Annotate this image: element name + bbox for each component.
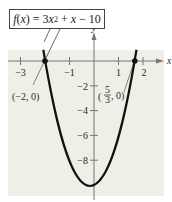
- svg-text:3: 3: [105, 94, 110, 105]
- x-intercept-point-a: [42, 58, 48, 64]
- y-axis-arrow-icon: [92, 32, 97, 40]
- point-a-label: (−2, 0): [12, 91, 39, 103]
- eq-plus: +: [58, 12, 71, 27]
- graph-canvas: −3 −1 1 2 −2 −4 −6 −8 x y (−2, 0) ( 5 3 …: [0, 0, 172, 202]
- y-tick-label: −6: [77, 130, 88, 141]
- y-tick-label: −2: [77, 81, 88, 92]
- x-tick-label: −1: [64, 67, 75, 78]
- x-tick-label: −3: [15, 67, 26, 78]
- y-tick-label: −4: [77, 105, 88, 116]
- y-tick-label: −8: [77, 155, 88, 166]
- x-tick-label: 1: [116, 67, 121, 78]
- equation-leader-line: [44, 29, 50, 42]
- x-tick-label: 2: [142, 67, 147, 78]
- x-intercept-point-b: [132, 58, 138, 64]
- x-axis-label: x: [166, 55, 172, 66]
- eq-tail: − 10: [76, 12, 101, 27]
- eq-mid: ) = 3: [26, 12, 49, 27]
- function-equation-label: f(x) = 3x2 + x − 10: [9, 9, 105, 29]
- svg-text:, 0): , 0): [111, 90, 124, 102]
